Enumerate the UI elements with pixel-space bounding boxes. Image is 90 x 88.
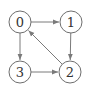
node-1: 1	[60, 11, 82, 33]
edge-1-to-2	[70, 33, 71, 60]
node-label: 1	[67, 15, 75, 30]
edge-2-to-0	[28, 30, 62, 64]
node-2: 2	[59, 61, 81, 83]
directed-graph: 0 1 2 3	[0, 0, 90, 88]
node-label: 0	[16, 15, 24, 30]
node-label: 2	[66, 65, 74, 80]
node-3: 3	[9, 61, 31, 83]
node-label: 3	[16, 65, 24, 80]
node-0: 0	[9, 11, 31, 33]
